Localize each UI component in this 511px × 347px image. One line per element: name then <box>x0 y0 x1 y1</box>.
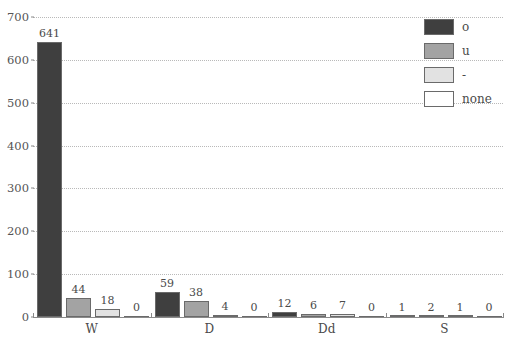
bar-value-label: 12 <box>278 297 292 310</box>
bar-value-label: 38 <box>189 286 203 299</box>
bar-value-label: 18 <box>101 294 115 307</box>
bar-value-label: 7 <box>339 299 346 312</box>
bar-value-label: 0 <box>368 301 375 314</box>
legend-swatch-icon <box>424 19 454 35</box>
bar-w-dash <box>95 309 120 317</box>
bar-value-label: 0 <box>133 301 140 314</box>
bar-w-o <box>37 42 62 317</box>
x-axis-group-label-dd: Dd <box>318 322 335 336</box>
bar-value-label: 4 <box>222 300 229 313</box>
bar-value-label: 0 <box>486 301 493 314</box>
legend-swatch-icon <box>424 43 454 59</box>
bar-w-u <box>66 298 91 317</box>
x-axis-group-label-w: W <box>86 322 98 336</box>
bar-value-label: 641 <box>39 27 60 40</box>
x-axis-tick <box>503 313 504 318</box>
x-axis-tick <box>268 313 269 318</box>
legend-item-dash[interactable]: - <box>424 64 504 88</box>
legend-item-u[interactable]: u <box>424 40 504 64</box>
y-axis-tick-label: 500 <box>0 96 29 110</box>
x-axis-group-label-s: S <box>440 322 448 336</box>
y-axis-tick-label: 0 <box>0 310 29 324</box>
bar-value-label: 0 <box>251 301 258 314</box>
y-axis-tick-label: 600 <box>0 53 29 67</box>
bar-value-label: 1 <box>457 301 464 314</box>
y-axis-tick-label: 300 <box>0 181 29 195</box>
legend-label: u <box>462 44 470 58</box>
bar-value-label: 6 <box>310 299 317 312</box>
x-axis-tick <box>151 313 152 318</box>
bar-d-o <box>155 292 180 317</box>
legend: ou-none <box>424 16 504 112</box>
bar-d-u <box>184 301 209 317</box>
x-axis-tick <box>33 313 34 318</box>
bar-value-label: 2 <box>428 301 435 314</box>
bar-value-label: 44 <box>72 283 86 296</box>
x-axis-group-label-d: D <box>204 322 214 336</box>
legend-label: - <box>462 68 466 82</box>
legend-item-none[interactable]: none <box>424 88 504 112</box>
legend-item-o[interactable]: o <box>424 16 504 40</box>
legend-swatch-icon <box>424 67 454 83</box>
bar-value-label: 1 <box>399 301 406 314</box>
bar-value-label: 59 <box>160 277 174 290</box>
legend-label: o <box>462 20 469 34</box>
legend-swatch-icon <box>424 91 454 107</box>
y-axis-tick-label: 400 <box>0 139 29 153</box>
y-axis-tick-label: 100 <box>0 267 29 281</box>
y-axis-tick-label: 200 <box>0 224 29 238</box>
legend-label: none <box>462 92 492 106</box>
y-axis-tick-label: 700 <box>0 10 29 24</box>
bar-chart: 0100200300400500600700 64144180593840126… <box>0 0 511 347</box>
x-axis-tick <box>386 313 387 318</box>
